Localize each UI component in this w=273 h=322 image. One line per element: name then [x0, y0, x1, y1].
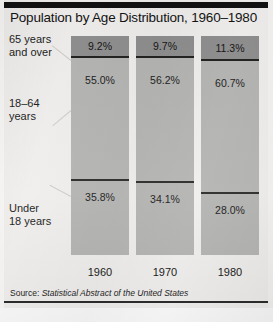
bar-segment-65-over-1970: 9.7% [136, 36, 194, 58]
source-prefix: Source: [10, 288, 39, 298]
leader-line-under18 [50, 185, 72, 197]
stacked-bar-1970: 9.7% 56.2% 34.1% [136, 36, 194, 255]
stacked-bar-1980: 11.3% 60.7% 28.0% [201, 36, 259, 255]
x-axis-label-1960: 1960 [71, 266, 129, 278]
row-label-under-18-line1: Under [9, 202, 67, 215]
population-age-distribution-figure: Population by Age Distribution, 1960–198… [0, 0, 273, 322]
row-label-18-64-line1: 18–64 [9, 97, 67, 110]
bar-value-under-18-1960: 35.8% [85, 191, 115, 203]
row-label-65-and-over-line2: and over [9, 46, 67, 59]
source-publication-title: Statistical Abstract of the United State… [42, 288, 189, 298]
source-note: Source: Statistical Abstract of the Unit… [10, 288, 188, 298]
top-rule-divider [4, 2, 269, 8]
bar-value-18-64-1980: 60.7% [215, 77, 245, 89]
row-label-under-18: Under 18 years [9, 202, 67, 228]
bar-segment-under-18-1980: 28.0% [201, 194, 259, 255]
page-edge-left [0, 0, 4, 322]
bar-segment-65-over-1960: 9.2% [71, 36, 129, 58]
row-label-65-and-over: 65 years and over [9, 33, 67, 59]
bar-value-18-64-1960: 55.0% [85, 74, 115, 86]
row-label-18-64-line2: years [9, 110, 67, 123]
bar-value-65-over-1970: 9.7% [153, 40, 177, 52]
stacked-bar-1960: 9.2% 55.0% 35.8% [71, 36, 129, 255]
row-label-65-and-over-line1: 65 years [9, 33, 67, 46]
page-edge-bottom [0, 308, 273, 322]
bar-value-18-64-1970: 56.2% [150, 74, 180, 86]
bar-segment-18-64-1960: 55.0% [71, 58, 129, 181]
bar-segment-65-over-1980: 11.3% [201, 36, 259, 61]
x-axis-label-1980: 1980 [201, 266, 259, 278]
bar-value-65-over-1960: 9.2% [88, 40, 112, 52]
bar-segment-under-18-1970: 34.1% [136, 183, 194, 255]
row-label-under-18-line2: 18 years [9, 215, 67, 228]
x-axis-label-1970: 1970 [136, 266, 194, 278]
bar-value-under-18-1970: 34.1% [150, 193, 180, 205]
chart-title: Population by Age Distribution, 1960–198… [10, 10, 266, 25]
bar-value-65-over-1980: 11.3% [216, 42, 245, 54]
bar-value-under-18-1980: 28.0% [215, 204, 245, 216]
bar-segment-18-64-1970: 56.2% [136, 58, 194, 183]
row-label-18-64: 18–64 years [9, 97, 67, 123]
page-edge-right [268, 0, 273, 322]
bar-segment-18-64-1980: 60.7% [201, 61, 259, 194]
bar-segment-under-18-1960: 35.8% [71, 181, 129, 255]
chart-plot-area: 65 years and over 18–64 years Under 18 y… [0, 0, 273, 322]
bottom-rule-divider [4, 301, 269, 303]
